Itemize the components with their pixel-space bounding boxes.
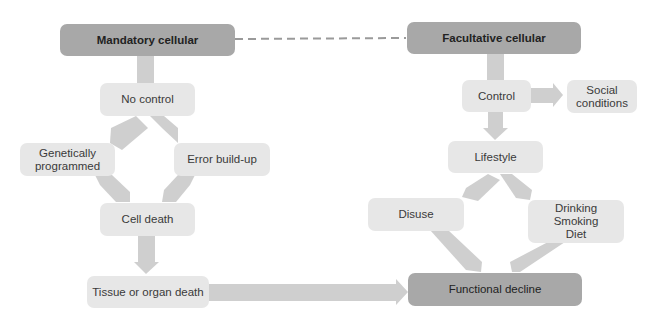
node-disuse: Disuse [368, 198, 464, 231]
node-cell-death: Cell death [100, 203, 195, 236]
arrow-nocontrol-to-error [150, 116, 178, 143]
arrow-facultative-to-control [487, 54, 504, 81]
arrow-genetically-to-celldeath [95, 175, 130, 202]
arrow-tissue-to-functional-head [396, 279, 408, 305]
dashed-connector [235, 38, 406, 39]
arrow-lifestyle-to-drinking [500, 174, 532, 200]
arrow-nocontrol-to-genetically [110, 116, 148, 150]
node-facultative-cellular: Facultative cellular [407, 22, 581, 54]
arrow-drinking-to-functional [510, 242, 565, 272]
node-no-control: No control [100, 83, 195, 116]
arrow-control-to-social-stem [530, 88, 554, 103]
node-genetically-programmed: Genetically programmed [20, 143, 115, 176]
node-lifestyle: Lifestyle [448, 141, 543, 173]
arrow-error-to-celldeath [162, 175, 195, 202]
arrow-control-to-lifestyle-head [483, 128, 508, 140]
arrow-control-to-lifestyle-stem [488, 112, 503, 129]
arrow-disuse-to-functional [430, 230, 482, 272]
node-functional-decline: Functional decline [408, 273, 582, 306]
node-control: Control [462, 80, 531, 112]
arrow-mandatory-to-nocontrol [137, 56, 154, 83]
node-tissue-or-organ-death: Tissue or organ death [87, 276, 209, 308]
arrow-lifestyle-to-disuse [462, 174, 500, 201]
arrow-control-to-social-head [553, 83, 563, 107]
arrow-celldeath-to-tissue-stem [138, 235, 155, 262]
node-social-conditions: Social conditions [567, 80, 637, 113]
arrow-tissue-to-functional-stem [209, 284, 397, 301]
node-mandatory-cellular: Mandatory cellular [60, 24, 235, 56]
node-error-build-up: Error build-up [174, 143, 270, 176]
node-drinking-smoking-diet: Drinking Smoking Diet [528, 200, 624, 243]
arrow-celldeath-to-tissue-head [134, 262, 159, 274]
